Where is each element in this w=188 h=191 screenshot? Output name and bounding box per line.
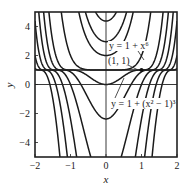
x-tick-label: −1	[65, 160, 76, 171]
annotation-point: (1, 1)	[108, 55, 130, 67]
annotation-y-1-plus-x6: y = 1 + x⁶	[109, 40, 149, 51]
y-tick-label: −2	[19, 108, 30, 119]
y-tick-label: 2	[25, 50, 30, 61]
x-axis-label: x	[103, 173, 109, 185]
point-1-1	[140, 68, 144, 72]
x-tick-label: 0	[104, 160, 109, 171]
y-axis-label: y	[3, 82, 15, 88]
solution-curves-chart: −2−1012 −4−2024 x y y = 1 + x⁶ (1, 1) y …	[0, 0, 188, 191]
x-tick-label: 1	[139, 160, 144, 171]
y-tick-label: −4	[19, 137, 30, 148]
x-tick-label: 2	[175, 160, 180, 171]
reference-lines	[35, 12, 177, 157]
annotation-cubic: y = 1 + (x² − 1)³	[111, 98, 176, 110]
y-tick-label: 4	[25, 21, 30, 32]
y-tick-label: 0	[25, 79, 30, 90]
x-tick-label: −2	[30, 160, 41, 171]
